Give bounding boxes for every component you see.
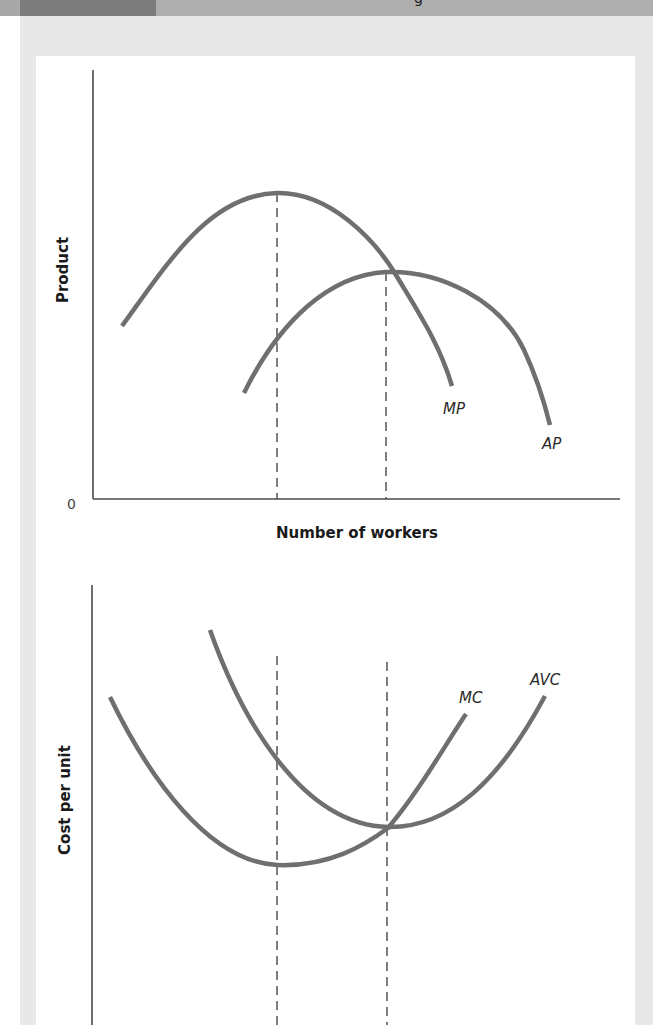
bottom-y-axis-title: Cost per unit — [56, 745, 74, 855]
avc-label: AVC — [529, 671, 561, 689]
top-chart: MP AP 0 Product Number of workers — [54, 70, 620, 542]
mp-curve — [122, 193, 452, 386]
ap-label: AP — [541, 435, 562, 453]
top-y-axis-title: Product — [54, 237, 72, 303]
avc-curve — [210, 630, 545, 827]
mc-curve — [110, 697, 466, 865]
mp-label: MP — [443, 400, 466, 418]
charts-svg: MP AP 0 Product Number of workers MC AVC… — [0, 0, 653, 1025]
mc-label: MC — [459, 689, 483, 707]
top-x-axis-title: Number of workers — [276, 524, 438, 542]
ap-curve — [244, 272, 550, 425]
origin-label: 0 — [67, 496, 76, 512]
bottom-chart: MC AVC Cost per unit — [56, 585, 561, 1025]
